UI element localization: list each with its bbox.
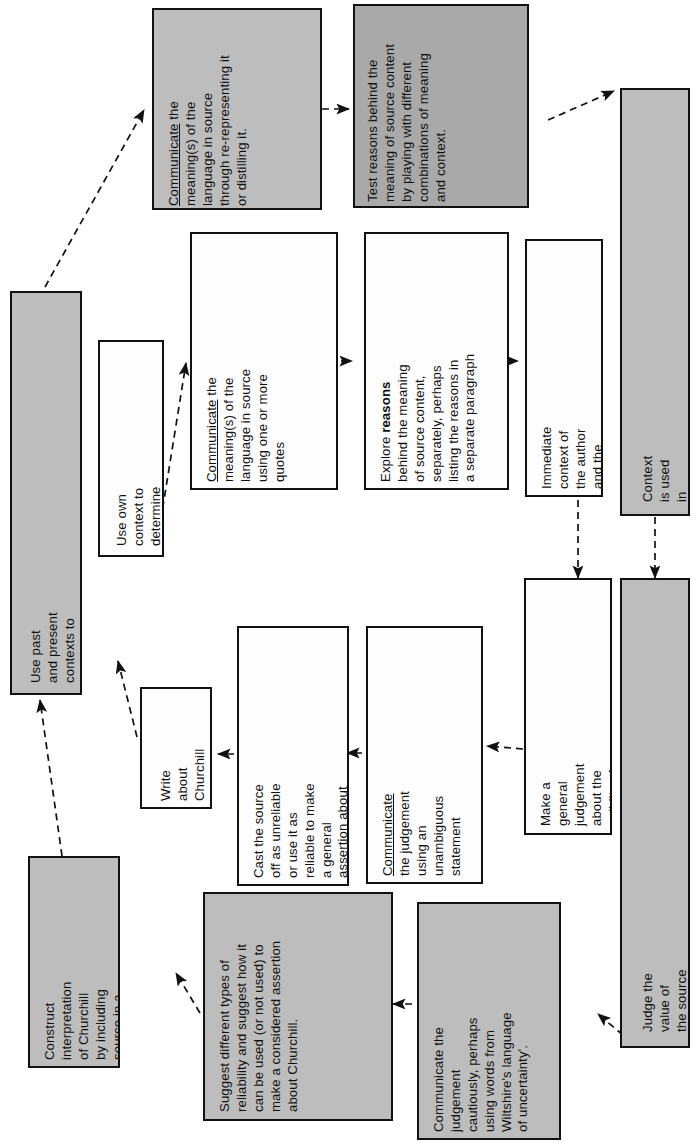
node-construct-interpretation-label: Construct interpretation of Churchill by… bbox=[42, 982, 120, 1060]
node-make-general-judgement-label: Make a general judgement about the valid… bbox=[538, 754, 612, 826]
node-suggest-types-of-reliability[interactable]: Suggest different types of reliability a… bbox=[203, 892, 393, 1121]
node-write-about-churchill[interactable]: Write about Churchill bbox=[140, 687, 212, 809]
node-communicate-re-representing-label: Communicate the meaning(s) of the langua… bbox=[166, 52, 250, 206]
node-past-present-contexts-label: Use past and present contexts to compreh… bbox=[28, 609, 82, 683]
node-communicate-quotes[interactable]: Communicate the meaning(s) of the langua… bbox=[190, 232, 338, 490]
node-test-reasons[interactable]: Test reasons behind the meaning of sourc… bbox=[353, 4, 529, 208]
node-immediate-context-label: Immediate context of the author and the … bbox=[539, 427, 603, 489]
edge-past-present-to-communicate-re-representing bbox=[45, 110, 144, 287]
node-cast-source-off[interactable]: Cast the source off as unreliable or use… bbox=[237, 626, 349, 886]
edge-test-reasons-to-context-spatial bbox=[548, 91, 614, 120]
node-own-context-label: Use own context to determine a single me… bbox=[114, 486, 164, 546]
edge-suggest-types-to-construct-interpretation bbox=[176, 973, 200, 1013]
node-judge-value-of-source[interactable]: Judge the value of the source (to a subs… bbox=[620, 578, 690, 1048]
edge-construct-interpretation-to-past-present bbox=[40, 700, 62, 856]
node-communicate-unambiguous[interactable]: Communicate the judgement using an unamb… bbox=[366, 626, 483, 884]
node-communicate-cautiously-label: Communicate the judgement cautiously, pe… bbox=[431, 1004, 532, 1132]
node-write-about-churchill-label: Write about Churchill bbox=[158, 749, 209, 801]
node-context-spatial-temporal-label: Context is used in different spatial and… bbox=[640, 450, 690, 502]
node-construct-interpretation[interactable]: Construct interpretation of Churchill by… bbox=[28, 856, 120, 1068]
node-own-context[interactable]: Use own context to determine a single me… bbox=[98, 340, 164, 557]
node-past-present-contexts[interactable]: Use past and present contexts to compreh… bbox=[10, 291, 82, 695]
edge-write-about-churchill-to-own-context bbox=[118, 661, 137, 737]
node-communicate-quotes-label: Communicate the meaning(s) of the langua… bbox=[204, 350, 288, 482]
node-communicate-unambiguous-label: Communicate the judgement using an unamb… bbox=[380, 775, 464, 876]
edge-make-general-judgement-to-communicate-unambiguous bbox=[487, 746, 523, 749]
diagram-canvas: Communicate the meaning(s) of the langua… bbox=[0, 0, 698, 1145]
node-judge-value-of-source-label: Judge the value of the source (to a subs… bbox=[640, 963, 690, 1032]
node-communicate-cautiously[interactable]: Communicate the judgement cautiously, pe… bbox=[417, 902, 561, 1140]
node-communicate-re-representing[interactable]: Communicate the meaning(s) of the langua… bbox=[152, 8, 322, 210]
node-test-reasons-label: Test reasons behind the meaning of sourc… bbox=[365, 40, 449, 202]
node-make-general-judgement[interactable]: Make a general judgement about the valid… bbox=[524, 578, 612, 835]
node-cast-source-off-label: Cast the source off as unreliable or use… bbox=[251, 782, 349, 878]
node-suggest-types-of-reliability-label: Suggest different types of reliability a… bbox=[217, 938, 301, 1112]
node-context-spatial-temporal[interactable]: Context is used in different spatial and… bbox=[620, 88, 690, 516]
node-explore-reasons[interactable]: Explore reasons behind the meaning of so… bbox=[364, 232, 509, 490]
node-explore-reasons-label: Explore reasons behind the meaning of so… bbox=[378, 353, 479, 482]
node-immediate-context[interactable]: Immediate context of the author and the … bbox=[525, 239, 603, 497]
